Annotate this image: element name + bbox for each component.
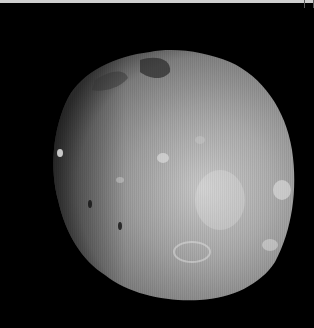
moon-image <box>0 3 314 328</box>
space-photo: Phobos <box>0 3 314 328</box>
